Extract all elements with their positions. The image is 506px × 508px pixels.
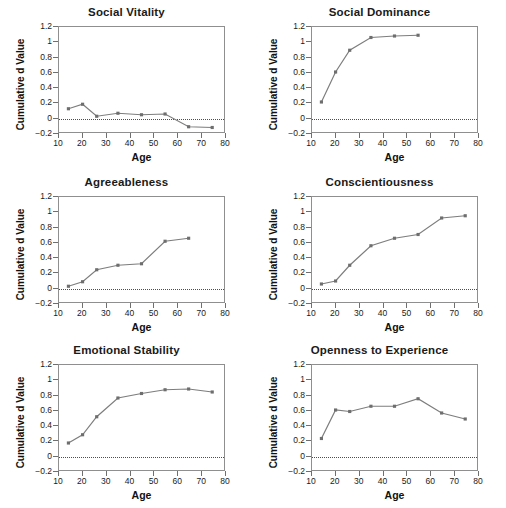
y-axis-tick-label: 1 — [300, 374, 305, 384]
data-point-marker — [464, 417, 467, 420]
y-axis-tick-label: −0.2 — [35, 466, 52, 476]
y-axis-tick-label: 1.2 — [293, 359, 305, 369]
personality-trait-chart-grid: Social VitalityCumulative d Value−0.200.… — [0, 0, 506, 508]
x-axis-tick-label: 10 — [306, 476, 315, 486]
data-series — [59, 27, 224, 132]
y-axis-tick-label: 1.2 — [40, 359, 52, 369]
plot-area — [311, 26, 478, 133]
x-axis-tick-label: 30 — [354, 308, 363, 318]
x-axis-tick-label: 20 — [330, 308, 339, 318]
plot-area — [58, 196, 225, 303]
x-axis-tick-label: 10 — [53, 138, 62, 148]
data-point-marker — [163, 112, 166, 115]
data-point-marker — [369, 405, 372, 408]
data-point-marker — [369, 244, 372, 247]
y-axis-tick-label: 0.6 — [293, 405, 305, 415]
series-line — [321, 216, 465, 284]
x-axis-title: Age — [58, 489, 225, 501]
data-point-marker — [334, 70, 337, 73]
x-axis-tick-label: 60 — [426, 308, 435, 318]
data-series — [59, 197, 224, 302]
data-point-marker — [81, 280, 84, 283]
y-axis-tick-label: 1 — [47, 374, 52, 384]
y-axis-tick-label: 0.2 — [40, 97, 52, 107]
x-axis-tick-label: 40 — [125, 476, 134, 486]
y-axis-tick-label: 0.8 — [40, 222, 52, 232]
data-point-marker — [211, 126, 214, 129]
x-axis-tick-label: 40 — [378, 308, 387, 318]
x-axis-tick-label: 50 — [402, 476, 411, 486]
data-point-marker — [393, 237, 396, 240]
data-point-marker — [140, 113, 143, 116]
chart-title: Social Vitality — [0, 6, 253, 18]
data-point-marker — [320, 437, 323, 440]
y-axis-tick-label: −0.2 — [35, 128, 52, 138]
chart-title: Conscientiousness — [253, 176, 506, 188]
data-point-marker — [348, 49, 351, 52]
y-axis-tick-label: 0.6 — [40, 67, 52, 77]
data-point-marker — [440, 411, 443, 414]
x-axis-tick-label: 70 — [196, 138, 205, 148]
data-point-marker — [81, 103, 84, 106]
y-axis-tick-label: 0.6 — [293, 67, 305, 77]
data-point-marker — [393, 405, 396, 408]
data-point-marker — [116, 396, 119, 399]
y-axis-tick-label: 0.4 — [293, 420, 305, 430]
y-axis-tick-label: 1.2 — [293, 21, 305, 31]
x-axis-tick-label: 70 — [449, 476, 458, 486]
data-point-marker — [81, 433, 84, 436]
series-line — [68, 238, 188, 286]
x-axis-tick-label: 30 — [101, 138, 110, 148]
x-axis-tick-label: 50 — [402, 138, 411, 148]
chart-panel: Openness to ExperienceCumulative d Value… — [253, 338, 506, 508]
data-point-marker — [348, 410, 351, 413]
x-axis-tick-label: 60 — [173, 138, 182, 148]
data-point-marker — [116, 112, 119, 115]
data-point-marker — [187, 237, 190, 240]
x-axis-tick-label: 20 — [330, 138, 339, 148]
x-axis-tick-label: 80 — [220, 138, 229, 148]
x-axis-tick-label: 80 — [220, 476, 229, 486]
x-axis-tick-label: 80 — [473, 308, 482, 318]
data-point-marker — [334, 279, 337, 282]
chart-panel: Social VitalityCumulative d Value−0.200.… — [0, 0, 253, 170]
y-axis-tick-label: −0.2 — [35, 298, 52, 308]
data-point-marker — [393, 34, 396, 37]
y-axis-title: Cumulative d Value — [15, 29, 26, 141]
y-axis-tick-label: 1.2 — [40, 191, 52, 201]
x-axis-tick-label: 20 — [330, 476, 339, 486]
x-axis-tick-label: 10 — [53, 476, 62, 486]
y-axis-tick-label: 0.2 — [293, 267, 305, 277]
y-axis-tick-label: 0.8 — [40, 390, 52, 400]
x-axis-tick-label: 80 — [473, 476, 482, 486]
x-axis-tick-label: 40 — [378, 476, 387, 486]
data-series — [312, 365, 477, 470]
x-axis-tick-label: 30 — [101, 476, 110, 486]
chart-panel: Emotional StabilityCumulative d Value−0.… — [0, 338, 253, 508]
x-axis-title: Age — [58, 321, 225, 333]
x-axis-tick-label: 70 — [196, 476, 205, 486]
chart-title: Social Dominance — [253, 6, 506, 18]
y-axis-tick-label: 0 — [47, 113, 52, 123]
y-axis-tick-label: 1.2 — [40, 21, 52, 31]
x-axis-tick-label: 30 — [354, 476, 363, 486]
y-axis-tick-label: 1 — [300, 206, 305, 216]
y-axis-tick-label: 0.2 — [293, 435, 305, 445]
data-point-marker — [334, 408, 337, 411]
y-axis-tick-label: 0.6 — [40, 405, 52, 415]
y-axis-tick-label: 1 — [300, 36, 305, 46]
data-point-marker — [67, 107, 70, 110]
data-point-marker — [187, 125, 190, 128]
x-axis-tick-label: 20 — [77, 138, 86, 148]
x-axis-tick-label: 80 — [473, 138, 482, 148]
x-axis-tick-label: 50 — [149, 476, 158, 486]
data-point-marker — [140, 392, 143, 395]
y-axis-tick-label: 0 — [47, 283, 52, 293]
data-point-marker — [187, 387, 190, 390]
y-axis-tick-label: 0.8 — [293, 390, 305, 400]
x-axis-tick-label: 40 — [125, 138, 134, 148]
data-point-marker — [440, 216, 443, 219]
x-axis-tick-label: 70 — [196, 308, 205, 318]
x-axis-tick-label: 10 — [53, 308, 62, 318]
series-line — [321, 35, 418, 102]
